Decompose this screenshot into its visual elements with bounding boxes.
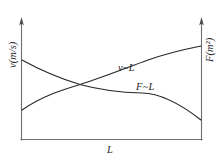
chart-canvas: v~L F~L v(m/s) F(m²) L (0, 0, 222, 162)
axis-frame (21, 22, 202, 140)
curves-group (22, 46, 201, 120)
y-axis-left-label: v(m/s) (7, 41, 19, 68)
curve-label-f-vs-l: F~L (135, 81, 155, 92)
figure-container: v~L F~L v(m/s) F(m²) L (0, 0, 222, 162)
curve-f-vs-l (22, 60, 201, 120)
x-axis-label: L (106, 144, 113, 155)
axis-arrowheads (19, 17, 204, 26)
y-axis-right-label: F(m²) (204, 37, 216, 63)
curve-v-vs-l (22, 46, 201, 110)
curve-label-v-vs-l: v~L (118, 62, 135, 73)
